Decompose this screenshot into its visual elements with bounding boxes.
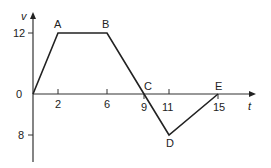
x-axis-arrow-icon	[249, 91, 256, 97]
x-tick-label-11: 11	[162, 101, 173, 113]
y-tick-label-0: 0	[16, 88, 22, 100]
point-label-E: E	[215, 80, 222, 92]
x-tick-label-2: 2	[55, 98, 61, 110]
x-tick-label-15: 15	[213, 101, 225, 113]
graph-line	[33, 33, 218, 135]
velocity-time-graph: v t 12 0 8 2 6 9 11 15 A B C D E	[0, 0, 271, 168]
x-axis-label: t	[248, 100, 252, 112]
x-tick-label-9: 9	[141, 101, 147, 113]
point-label-C: C	[144, 80, 152, 92]
x-tick-label-6: 6	[104, 98, 110, 110]
point-label-B: B	[102, 18, 109, 30]
point-label-D: D	[166, 137, 174, 149]
point-label-A: A	[54, 18, 62, 30]
y-tick-label-8: 8	[18, 129, 24, 141]
y-tick-label-12: 12	[13, 27, 25, 39]
y-axis-arrow-icon	[30, 12, 36, 19]
y-axis-label: v	[21, 10, 28, 22]
